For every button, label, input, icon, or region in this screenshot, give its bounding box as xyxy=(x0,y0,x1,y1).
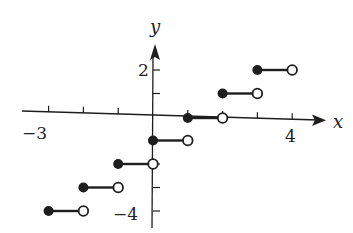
x-axis-line xyxy=(22,111,318,120)
open-endpoint-icon xyxy=(148,159,158,169)
axes xyxy=(22,44,326,228)
open-endpoint-icon xyxy=(79,206,89,216)
x-tick-label-4: 4 xyxy=(285,126,296,146)
step-function-graph: x y −3 4 2 −4 xyxy=(0,0,353,233)
step-segment xyxy=(113,159,158,169)
step-segment xyxy=(78,183,123,193)
open-endpoint-icon xyxy=(287,65,297,75)
closed-endpoint-icon xyxy=(113,159,123,169)
y-tick-label-2: 2 xyxy=(138,60,149,80)
closed-endpoint-icon xyxy=(44,206,54,216)
step-segment xyxy=(183,113,228,123)
closed-endpoint-icon xyxy=(218,89,228,99)
open-endpoint-icon xyxy=(183,136,193,146)
closed-endpoint-icon xyxy=(252,65,262,75)
closed-endpoint-icon xyxy=(78,183,88,193)
y-axis-arrow-icon xyxy=(150,44,160,60)
step-segments xyxy=(44,65,297,216)
closed-endpoint-icon xyxy=(183,113,193,123)
open-endpoint-icon xyxy=(253,89,263,99)
y-axis-label: y xyxy=(149,16,161,37)
step-segment xyxy=(44,206,89,216)
step-segment xyxy=(148,136,193,146)
x-tick-label-neg3: −3 xyxy=(22,123,47,143)
closed-endpoint-icon xyxy=(148,136,158,146)
open-endpoint-icon xyxy=(218,113,228,123)
open-endpoint-icon xyxy=(113,183,123,193)
step-segment xyxy=(218,89,263,99)
y-tick-label-neg4: −4 xyxy=(113,204,138,224)
x-axis-label: x xyxy=(333,111,343,132)
step-segment xyxy=(252,65,297,75)
